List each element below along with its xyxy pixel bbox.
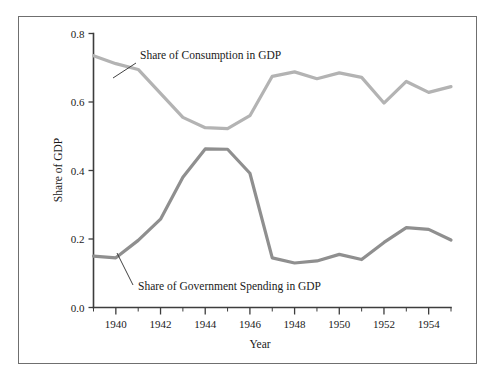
y-axis: 0.80.60.40.20.0 — [71, 28, 94, 314]
figure-root: 0.80.60.40.20.0 194019421944194619481950… — [0, 0, 495, 381]
y-axis-tick-label: 0.8 — [71, 28, 85, 40]
x-axis-tick-label: 1952 — [373, 318, 395, 330]
x-axis-tick-label: 1946 — [239, 318, 262, 330]
y-axis-title: Share of GDP — [52, 138, 64, 203]
government-spending-series-line — [94, 149, 452, 263]
x-axis-tick-label: 1944 — [194, 318, 217, 330]
x-axis-tick-label: 1940 — [105, 318, 128, 330]
annotation-group: Share of Consumption in GDPShare of Gove… — [113, 49, 321, 293]
y-axis-tick-label: 0.4 — [71, 165, 85, 177]
x-axis-title: Year — [249, 338, 270, 350]
x-axis: 19401942194419461948195019521954 — [94, 308, 452, 330]
government-annotation-leader-line — [117, 253, 133, 285]
line-chart: 0.80.60.40.20.0 194019421944194619481950… — [0, 0, 495, 381]
x-axis-tick-label: 1954 — [418, 318, 441, 330]
consumption-series-line — [94, 56, 452, 129]
data-series-group — [94, 56, 452, 263]
x-axis-tick-label: 1942 — [150, 318, 172, 330]
x-axis-tick-label: 1948 — [284, 318, 307, 330]
y-axis-tick-label: 0.6 — [71, 96, 85, 108]
consumption-annotation-label: Share of Consumption in GDP — [140, 49, 281, 62]
y-axis-tick-label: 0.0 — [71, 302, 85, 314]
government-annotation-label: Share of Government Spending in GDP — [138, 280, 321, 293]
x-axis-tick-label: 1950 — [328, 318, 351, 330]
y-axis-tick-label: 0.2 — [71, 233, 85, 245]
